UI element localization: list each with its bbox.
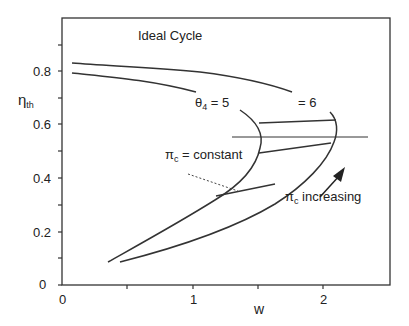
x-tick-0: 0 (59, 293, 66, 306)
lower-efficiency-curve (72, 73, 196, 92)
x-axis-label: w (254, 302, 264, 316)
theta4-6-label: = 6 (298, 96, 316, 109)
y-axis-label-sub: th (26, 100, 34, 110)
theta4-5-label: θ4 = 5 (195, 96, 229, 112)
upper-efficiency-curve (72, 63, 292, 92)
y-tick-0.2: 0.2 (33, 226, 51, 239)
pic-increasing-label: πc increasing (285, 190, 361, 206)
theta4-6-curve (120, 112, 337, 262)
y-tick-0.6: 0.6 (33, 118, 51, 131)
theta4-5-curve (108, 110, 261, 262)
y-tick-0.4: 0.4 (33, 172, 51, 185)
pic-constant-line-1 (259, 120, 336, 123)
chart-title: Ideal Cycle (138, 29, 202, 42)
x-tick-1: 1 (190, 293, 197, 306)
y-axis-label: ηth (18, 92, 34, 110)
x-tick-2: 2 (320, 293, 327, 306)
pic-constant-label: πc = constant (165, 148, 242, 164)
y-tick-0: 0 (39, 278, 46, 291)
y-tick-0.8: 0.8 (33, 65, 51, 78)
pic-constant-leader (188, 174, 238, 191)
pic-constant-line-3 (216, 184, 275, 196)
pic-constant-line-2 (259, 143, 331, 153)
